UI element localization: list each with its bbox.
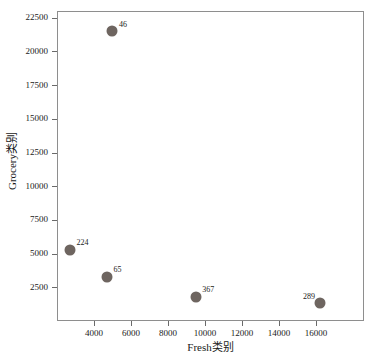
x-tick-label: 16000 [291,328,341,338]
y-tick-mark [52,18,57,19]
scatter-point[interactable] [314,298,325,309]
y-tick-label: 2500 [0,283,48,292]
scatter-point-label: 289 [303,293,315,301]
y-axis-title: Grocery类别 [6,91,18,231]
x-tick-mark [205,321,206,326]
y-tick-mark [52,287,57,288]
y-tick-mark [52,153,57,154]
y-tick-mark [52,119,57,120]
scatter-point[interactable] [107,26,118,37]
y-tick-label: 22500 [0,13,48,22]
scatter-point[interactable] [64,244,75,255]
y-tick-label: 5000 [0,249,48,258]
y-tick-mark [52,85,57,86]
y-tick-mark [52,220,57,221]
scatter-point-label: 65 [113,266,121,274]
x-tick-mark [131,321,132,326]
y-tick-label: 20000 [0,47,48,56]
y-tick-label: 17500 [0,81,48,90]
x-tick-mark [279,321,280,326]
y-tick-mark [52,51,57,52]
x-tick-mark [168,321,169,326]
scatter-point-label: 367 [202,286,214,294]
scatter-chart-figure: 2500500075001000012500150001750020000225… [0,0,375,360]
scatter-point[interactable] [190,291,201,302]
x-tick-mark [242,321,243,326]
scatter-point-label: 224 [76,239,88,247]
x-tick-mark [316,321,317,326]
y-tick-mark [52,186,57,187]
x-tick-mark [94,321,95,326]
y-tick-mark [52,254,57,255]
scatter-point-label: 46 [119,21,127,29]
x-axis-title: Fresh类别 [57,341,364,353]
scatter-point[interactable] [101,271,112,282]
